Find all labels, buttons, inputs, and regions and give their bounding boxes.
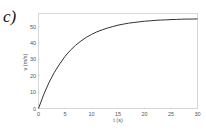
y-tick-label: 20 bbox=[30, 73, 36, 79]
y-axis-label: v (m/s) bbox=[22, 53, 28, 70]
x-tick-label: 10 bbox=[88, 111, 94, 117]
x-axis-label: t (s) bbox=[113, 117, 123, 123]
x-tick-label: 0 bbox=[37, 111, 40, 117]
x-tick-label: 5 bbox=[63, 111, 66, 117]
x-tick-label: 30 bbox=[194, 111, 200, 117]
y-tick-label: 50 bbox=[30, 24, 36, 30]
figure: c) 051015202530 01020304050 t (s) v (m/s… bbox=[0, 0, 206, 130]
y-tick-label: 10 bbox=[30, 89, 36, 95]
panel-label: c) bbox=[3, 7, 17, 26]
y-tick-label: 30 bbox=[30, 56, 36, 62]
x-tick-label: 25 bbox=[168, 111, 174, 117]
y-tick-label: 0 bbox=[33, 106, 36, 112]
y-tick-label: 40 bbox=[30, 40, 36, 46]
x-tick-label: 20 bbox=[141, 111, 147, 117]
velocity-curve bbox=[39, 19, 198, 109]
